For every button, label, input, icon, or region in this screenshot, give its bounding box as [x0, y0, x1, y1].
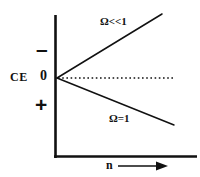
- x-axis-title: n: [106, 159, 113, 171]
- curve-label-omega-equals-one: Ω=1: [109, 113, 130, 124]
- curve-label-omega-much-less-than-one: Ω<<1: [100, 16, 127, 27]
- y-axis-negative-sign: –: [36, 38, 48, 59]
- y-axis-positive-sign: +: [35, 94, 47, 115]
- y-axis-title: CE: [10, 71, 28, 83]
- y-axis-zero-label: 0: [40, 69, 47, 83]
- figure-container: CE 0 – + Ω<<1 Ω=1 n: [0, 0, 200, 177]
- x-axis-arrow-icon: [118, 162, 168, 171]
